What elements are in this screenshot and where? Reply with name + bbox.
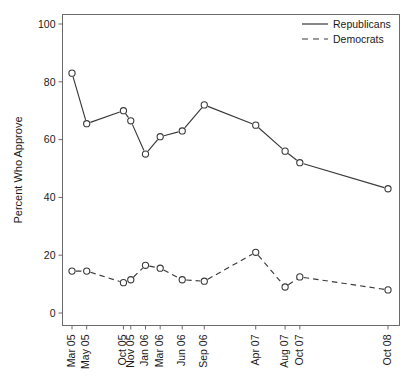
y-tick-label: 0	[50, 307, 56, 319]
legend-label: Republicans	[333, 18, 391, 30]
data-point-marker	[201, 278, 207, 284]
data-point-marker	[385, 186, 391, 192]
y-tick-label: 80	[44, 76, 56, 88]
data-point-marker	[120, 280, 126, 286]
data-point-marker	[253, 249, 259, 255]
data-point-marker	[253, 122, 259, 128]
data-point-marker	[128, 277, 134, 283]
data-point-marker	[157, 265, 163, 271]
x-tick-label: Jan 06	[138, 334, 150, 366]
data-point-marker	[201, 102, 207, 108]
data-point-marker	[84, 268, 90, 274]
data-point-marker	[128, 118, 134, 124]
legend-label: Democrats	[333, 33, 384, 45]
y-tick-label: 40	[44, 191, 56, 203]
data-point-marker	[142, 262, 148, 268]
x-tick-label: Apr 07	[249, 334, 261, 365]
y-axis-label: Percent Who Approve	[12, 116, 24, 223]
x-tick-label: Mar 06	[153, 334, 165, 367]
data-point-marker	[282, 284, 288, 290]
data-point-marker	[385, 287, 391, 293]
data-point-marker	[179, 128, 185, 134]
x-tick-label: Oct 08	[381, 334, 393, 365]
x-tick-label: Mar 05	[65, 334, 77, 367]
data-point-marker	[142, 151, 148, 157]
data-point-marker	[297, 160, 303, 166]
data-point-marker	[120, 108, 126, 114]
data-point-marker	[157, 134, 163, 140]
x-tick-label: Jun 06	[175, 334, 187, 366]
x-tick-label: Sep 06	[197, 334, 209, 367]
approval-line-chart: 020406080100 Mar 05May 05Oct 05Nov 05Jan…	[0, 0, 414, 381]
chart-container: 020406080100 Mar 05May 05Oct 05Nov 05Jan…	[0, 0, 414, 381]
y-tick-label: 60	[44, 133, 56, 145]
y-tick-label: 20	[44, 249, 56, 261]
x-tick-label: Oct 07	[293, 334, 305, 365]
data-point-marker	[282, 148, 288, 154]
y-tick-label: 100	[38, 18, 56, 30]
data-point-marker	[69, 70, 75, 76]
x-tick-label: May 05	[79, 334, 91, 369]
data-point-marker	[297, 274, 303, 280]
data-point-marker	[179, 277, 185, 283]
x-tick-label: Nov 05	[124, 334, 136, 367]
x-tick-label: Aug 07	[278, 334, 290, 367]
data-point-marker	[69, 268, 75, 274]
data-point-marker	[84, 121, 90, 127]
